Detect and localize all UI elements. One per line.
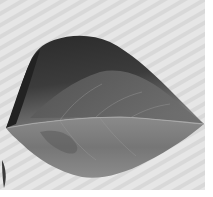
leaf-image — [0, 0, 213, 197]
bottom-margin — [0, 190, 213, 197]
right-margin — [205, 0, 213, 197]
leaf-photo — [0, 0, 213, 197]
